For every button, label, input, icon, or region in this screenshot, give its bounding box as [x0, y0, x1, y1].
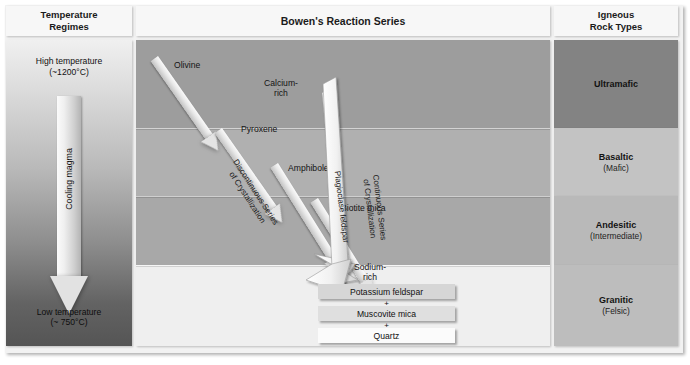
header-temperature-line1: Temperature: [41, 9, 98, 20]
temperature-regimes-column: High temperature (~1200°C) Cooling magma…: [6, 40, 132, 346]
label-calcium-rich-line2: rich: [274, 88, 288, 98]
igneous-rock-types-column: Ultramafic Basaltic (Mafic) Andesitic (I…: [554, 40, 678, 346]
rock-cell-andesitic: Andesitic (Intermediate): [554, 196, 678, 265]
low-temperature-label: Low temperature (~ 750°C): [6, 307, 132, 328]
label-sodium-rich-line1: Sodium-: [354, 262, 386, 272]
rock-cell-ultramafic: Ultramafic: [554, 40, 678, 128]
label-calcium-rich-line1: Calcium-: [264, 78, 298, 88]
low-temperature-text: Low temperature: [37, 307, 102, 317]
result-box-potassium-feldspar: Potassium feldspar: [318, 284, 455, 299]
label-sodium-rich-line2: rich: [363, 272, 377, 282]
cooling-magma-label: Cooling magma: [64, 114, 74, 244]
label-amphibole: Amphibole: [288, 163, 329, 173]
header-rock-line2: Rock Types: [590, 21, 643, 32]
rock-sub-granitic: (Felsic): [602, 306, 629, 316]
rock-sub-basaltic: (Mafic): [603, 163, 629, 173]
header-rock-line1: Igneous: [598, 9, 634, 20]
result-box-muscovite-mica: Muscovite mica: [318, 306, 455, 321]
high-temperature-label: High temperature (~1200°C): [6, 56, 132, 77]
rock-sub-andesitic: (Intermediate): [590, 231, 642, 241]
result-box-quartz: Quartz: [318, 328, 455, 343]
rock-name-basaltic: Basaltic: [599, 152, 634, 162]
low-temperature-value: (~ 750°C): [50, 317, 87, 327]
diagram-canvas: Temperature Regimes Bowen's Reaction Ser…: [0, 0, 690, 365]
label-calcium-rich: Calcium- rich: [264, 78, 298, 99]
rock-name-andesitic: Andesitic: [596, 220, 637, 230]
label-sodium-rich: Sodium- rich: [354, 262, 386, 283]
rock-cell-basaltic: Basaltic (Mafic): [554, 128, 678, 196]
rock-name-ultramafic: Ultramafic: [594, 79, 638, 89]
header-igneous-rock-types: Igneous Rock Types: [554, 6, 678, 36]
high-temperature-value: (~1200°C): [49, 67, 89, 77]
rock-cell-granitic: Granitic (Felsic): [554, 265, 678, 346]
header-temperature-regimes: Temperature Regimes: [6, 6, 132, 36]
header-bowens-reaction-series: Bowen's Reaction Series: [136, 6, 550, 36]
label-pyroxene: Pyroxene: [241, 124, 277, 134]
reaction-series-panel: Olivine Pyroxene Amphibole Biotite mica …: [136, 40, 550, 346]
header-temperature-line2: Regimes: [49, 21, 89, 32]
rock-name-granitic: Granitic: [599, 295, 633, 305]
cooling-magma-arrow: Cooling magma: [50, 96, 88, 314]
high-temperature-text: High temperature: [36, 56, 102, 66]
label-olivine: Olivine: [174, 60, 200, 70]
